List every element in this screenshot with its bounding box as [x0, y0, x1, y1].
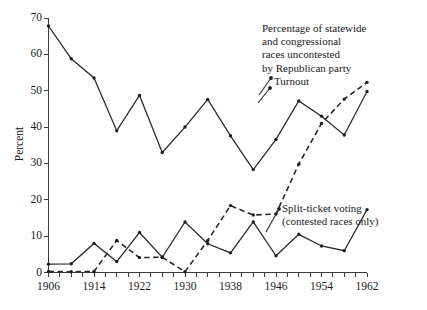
x-tick-label-1938: 1938	[206, 280, 256, 292]
data-point	[70, 270, 73, 273]
chart-figure: Percent 010203040506070 1906191419221930…	[0, 0, 427, 310]
y-tick-label-40: 40	[6, 120, 42, 132]
data-point	[115, 260, 118, 263]
data-point	[297, 162, 300, 165]
data-point	[47, 270, 50, 273]
data-point	[206, 98, 209, 101]
data-point	[47, 24, 50, 27]
y-tick-label-0: 0	[6, 266, 42, 278]
x-tick-label-1946: 1946	[251, 280, 301, 292]
y-tick-label-10: 10	[6, 229, 42, 241]
y-tick-label-60: 60	[6, 47, 42, 59]
data-point	[365, 90, 368, 93]
data-point	[365, 81, 368, 84]
annotation-uncontested-line-3: races uncontested	[262, 48, 366, 61]
annotation-uncontested-line-4: by Republican party	[262, 62, 366, 75]
annotation-turnout-line-1: Turnout	[274, 75, 309, 88]
data-point	[161, 151, 164, 154]
leader-line-turnout	[258, 88, 270, 103]
x-tick-label-1954: 1954	[297, 280, 347, 292]
x-tick-label-1962: 1962	[342, 280, 392, 292]
data-point	[297, 233, 300, 236]
data-point	[206, 239, 209, 242]
annotation-turnout: Turnout	[274, 75, 309, 88]
data-point	[183, 125, 186, 128]
data-point	[297, 99, 300, 102]
data-point	[115, 129, 118, 132]
x-tick-label-1906: 1906	[24, 280, 74, 292]
data-point	[70, 262, 73, 265]
data-point	[138, 231, 141, 234]
data-point	[274, 138, 277, 141]
data-point	[343, 133, 346, 136]
data-point	[274, 254, 277, 257]
x-axis-ticks	[49, 273, 368, 278]
data-point	[252, 168, 255, 171]
data-point	[320, 122, 323, 125]
annotation-uncontested-line-2: and congressional	[262, 35, 366, 48]
data-point	[343, 97, 346, 100]
leader-dot-uncontested	[269, 76, 273, 80]
leader-dot-turnout	[268, 86, 272, 90]
y-tick-label-20: 20	[6, 193, 42, 205]
data-point	[92, 242, 95, 245]
data-point	[343, 249, 346, 252]
leader-dot-split-ticket	[277, 207, 281, 211]
data-point	[229, 204, 232, 207]
data-point	[70, 57, 73, 60]
data-point	[229, 251, 232, 254]
annotation-split-ticket: Split-ticket voting (contested races onl…	[282, 202, 379, 228]
data-point	[320, 114, 323, 117]
x-tick-label-1922: 1922	[115, 280, 165, 292]
data-point	[161, 256, 164, 259]
annotation-uncontested-line-1: Percentage of statewide	[262, 22, 366, 35]
data-point	[47, 262, 50, 265]
data-point	[92, 76, 95, 79]
x-tick-label-1914: 1914	[69, 280, 119, 292]
y-axis-ticks	[44, 18, 49, 273]
annotation-leader-lines	[258, 76, 281, 232]
data-point	[92, 270, 95, 273]
data-point	[206, 242, 209, 245]
annotation-split-ticket-line-2: (contested races only)	[282, 215, 379, 228]
y-tick-label-70: 70	[6, 11, 42, 23]
data-point	[138, 94, 141, 97]
data-point	[183, 220, 186, 223]
annotation-split-ticket-line-1: Split-ticket voting	[282, 202, 379, 215]
data-point	[252, 213, 255, 216]
y-tick-label-30: 30	[6, 156, 42, 168]
data-point	[138, 256, 141, 259]
data-point	[252, 220, 255, 223]
y-tick-label-50: 50	[6, 84, 42, 96]
data-point	[115, 239, 118, 242]
leader-line-split-ticket	[266, 209, 279, 232]
data-point	[229, 134, 232, 137]
data-point	[183, 270, 186, 273]
annotation-uncontested: Percentage of statewide and congressiona…	[262, 22, 366, 75]
data-point	[320, 244, 323, 247]
x-tick-label-1930: 1930	[160, 280, 210, 292]
